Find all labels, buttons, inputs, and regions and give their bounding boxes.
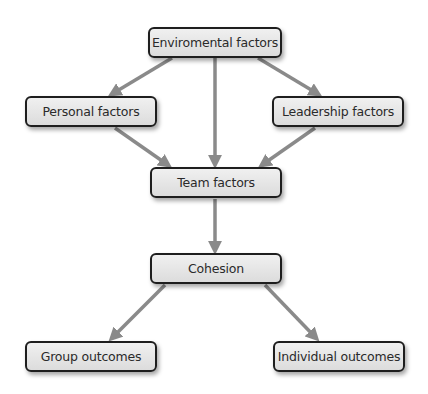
arrow-cohesion-to-group [112,285,165,338]
node-individual-outcomes: Individual outcomes [273,341,405,372]
arrow-personal-to-team [115,128,168,165]
node-label: Personal factors [42,104,139,119]
node-label: Team factors [177,175,255,190]
node-group-outcomes: Group outcomes [25,341,157,372]
node-cohesion: Cohesion [150,253,282,284]
node-personal-factors: Personal factors [25,96,157,127]
node-environmental-factors: Enviromental factors [148,27,282,58]
node-label: Group outcomes [41,349,142,364]
node-label: Cohesion [188,261,244,276]
arrow-env-to-personal [112,58,172,94]
node-label: Individual outcomes [278,349,400,364]
node-leadership-factors: Leadership factors [272,96,404,127]
node-label: Enviromental factors [152,35,278,50]
node-label: Leadership factors [282,104,394,119]
arrow-leadership-to-team [262,128,315,165]
arrow-cohesion-to-individual [265,285,316,338]
arrow-env-to-leadership [258,58,318,94]
node-team-factors: Team factors [150,167,282,198]
